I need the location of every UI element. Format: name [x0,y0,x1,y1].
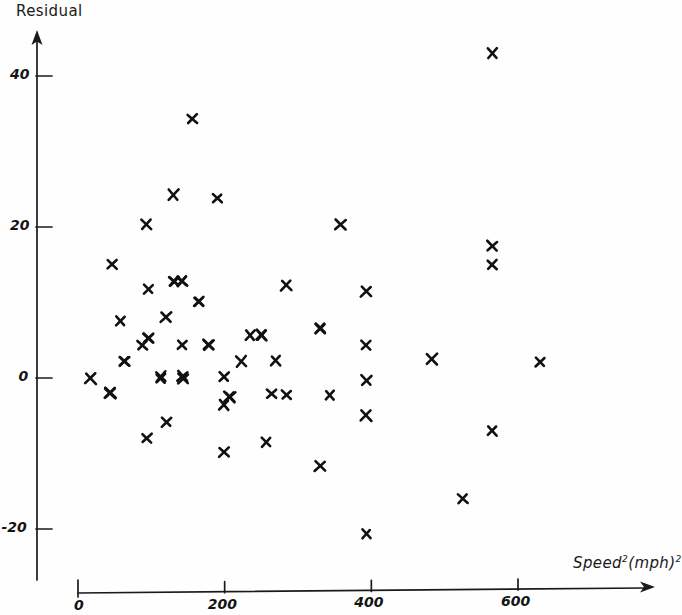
data-point-marker [335,219,346,229]
data-point-marker [315,461,326,471]
data-point-marker [236,356,246,367]
x-axis-arrow-icon [640,582,655,593]
data-point-marker [204,340,214,349]
x-axis-tick-label: 600 [501,593,530,609]
y-axis-tick-label: 0 [19,368,29,384]
data-point-marker [224,392,235,403]
data-point-marker [487,241,497,251]
data-point-marker [257,330,267,341]
y-axis-tick-label: -20 [2,519,27,535]
data-point-marker [141,220,151,230]
data-point-marker [220,372,229,381]
data-point-marker [262,438,270,447]
x-axis-line [78,588,645,593]
data-point-marker [488,48,497,58]
data-point-marker [144,285,153,294]
data-point-marker [108,260,117,269]
data-point-marker [116,316,125,325]
data-point-marker [362,529,370,538]
data-point-marker [142,434,151,443]
data-point-marker [267,390,276,398]
x-axis-tick-label: 400 [354,594,383,610]
data-point-marker [535,358,544,367]
ticks-group [36,76,518,593]
data-points-group [85,48,544,538]
data-point-marker [361,410,372,421]
data-point-marker [169,189,179,199]
x-axis-title: Speed2(mph)2 [573,554,682,572]
data-point-marker [144,334,153,343]
data-point-marker [282,390,291,399]
data-point-marker [178,341,187,350]
y-axis-tick-label: 40 [10,66,29,82]
y-axis-tick-label: 20 [10,217,29,233]
data-point-marker [219,447,229,456]
scatter-plot-figure: Residual Speed2(mph)2 0200400600-2002040 [0,0,682,615]
x-axis-title-base: Speed [573,554,622,572]
data-point-marker [246,330,255,339]
data-point-marker [105,389,115,399]
x-axis-title-exponent-2: 2 [676,554,682,564]
data-point-marker [120,357,130,366]
data-point-marker [85,373,96,384]
data-point-marker [213,194,222,202]
y-axis-title: Residual [16,2,83,20]
data-point-marker [271,356,280,366]
data-point-marker [315,324,324,333]
data-point-marker [488,426,497,435]
data-point-marker [281,281,292,291]
plot-canvas [0,0,682,615]
data-point-marker [161,312,172,322]
data-point-marker [361,287,371,297]
data-point-marker [361,341,370,350]
data-point-marker [188,114,197,123]
data-point-marker [195,297,204,306]
data-point-marker [427,354,437,365]
x-axis-tick-label: 0 [74,597,84,613]
data-point-marker [162,418,171,427]
x-axis-title-mid: (mph) [628,554,675,572]
x-axis-tick-label: 200 [208,596,237,612]
data-point-marker [488,260,497,269]
data-point-marker [326,391,334,400]
data-point-marker [458,494,468,503]
data-point-marker [361,375,371,385]
axes-group [32,30,656,597]
